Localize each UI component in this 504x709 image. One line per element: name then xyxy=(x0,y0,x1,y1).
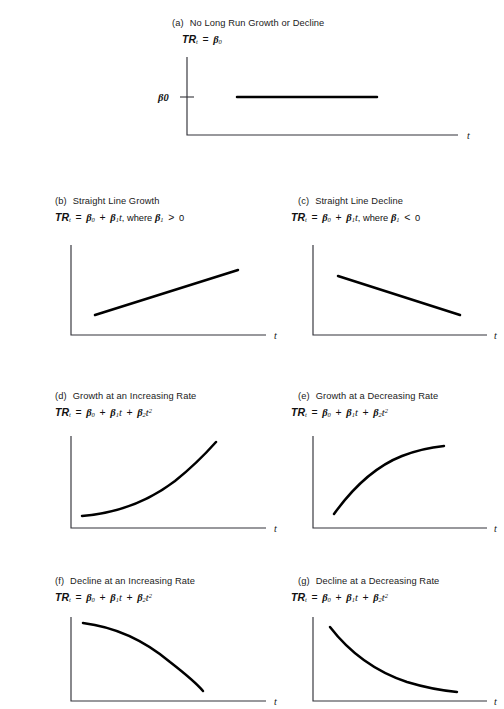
panel-a: (a)No Long Run Growth or Decline TRt = β… xyxy=(172,18,324,45)
tr-symbol: TR xyxy=(291,211,305,223)
t-squared-exponent: 2 xyxy=(385,592,388,599)
beta-one-subscript: 1 xyxy=(160,216,163,223)
panel-d-tag: (d) xyxy=(55,391,67,401)
zero-value: 0 xyxy=(415,213,420,223)
panel-g-tag: (g) xyxy=(298,576,310,586)
panel-e: (e)Growth at a Decreasing Rate TRt = β0 … xyxy=(298,391,438,418)
panel-f-x-axis-label: t xyxy=(274,696,277,707)
panel-f-plot: t xyxy=(70,615,295,709)
panel-a-plot: β0 t xyxy=(186,55,476,150)
plus-symbol: + xyxy=(124,406,134,418)
panel-c-caption-text: Straight Line Decline xyxy=(315,196,403,206)
tr-subscript: t xyxy=(69,596,71,603)
panel-d: (d)Growth at an Increasing Rate TRt = β0… xyxy=(55,391,196,418)
panel-g-formula: TRt = β0 + β1t + β2t2 xyxy=(291,591,439,603)
less-than-symbol: < xyxy=(402,211,412,223)
equals-symbol: = xyxy=(73,406,83,418)
panel-g-caption-text: Decline at a Decreasing Rate xyxy=(316,576,440,586)
panel-e-plot: t xyxy=(312,434,502,542)
equals-symbol: = xyxy=(73,591,83,603)
tr-symbol: TR xyxy=(55,211,69,223)
panel-d-caption-text: Growth at an Increasing Rate xyxy=(73,391,197,401)
panel-e-curve xyxy=(334,446,444,514)
panel-g-curve xyxy=(330,627,457,692)
beta-one-subscript: 1 xyxy=(396,216,399,223)
panel-e-formula: TRt = β0 + β1t + β2t2 xyxy=(291,406,438,418)
panel-e-caption: (e)Growth at a Decreasing Rate xyxy=(298,391,438,401)
panel-c-tag: (c) xyxy=(298,196,309,206)
plus-symbol: + xyxy=(97,211,107,223)
plus-symbol: + xyxy=(360,406,370,418)
panel-b-formula: TRt = β0 + β1t, where β1 > 0 xyxy=(55,211,184,223)
panel-b-tag: (b) xyxy=(55,196,67,206)
trend-models-figure: (a)No Long Run Growth or Decline TRt = β… xyxy=(0,0,504,709)
panel-b: (b)Straight Line Growth TRt = β0 + β1t, … xyxy=(55,196,184,223)
plus-symbol: + xyxy=(333,211,343,223)
t-variable: t xyxy=(119,407,122,418)
panel-c-formula: TRt = β0 + β1t, where β1 < 0 xyxy=(291,211,420,223)
plus-symbol: + xyxy=(360,591,370,603)
beta-zero-subscript: 0 xyxy=(219,38,222,45)
panel-b-caption-text: Straight Line Growth xyxy=(73,196,160,206)
equals-symbol: = xyxy=(309,211,319,223)
tr-subscript: t xyxy=(69,216,71,223)
panel-g-caption: (g)Decline at a Decreasing Rate xyxy=(298,576,439,586)
t-variable: t xyxy=(119,592,122,603)
panel-f: (f)Decline at an Increasing Rate TRt = β… xyxy=(55,576,195,603)
panel-g-axes xyxy=(313,617,487,701)
beta-zero-subscript: 0 xyxy=(92,596,95,603)
panel-d-plot: t xyxy=(70,434,295,542)
panel-f-caption-text: Decline at an Increasing Rate xyxy=(70,576,195,586)
equals-symbol: = xyxy=(309,406,319,418)
panel-c-caption: (c)Straight Line Decline xyxy=(298,196,420,206)
panel-a-x-axis-label: t xyxy=(467,130,470,141)
tr-symbol: TR xyxy=(291,406,305,418)
panel-e-caption-text: Growth at a Decreasing Rate xyxy=(316,391,439,401)
panel-c-x-axis-label: t xyxy=(494,330,497,341)
panel-a-caption: (a)No Long Run Growth or Decline xyxy=(172,18,324,28)
panel-b-caption: (b)Straight Line Growth xyxy=(55,196,184,206)
beta-zero-subscript: 0 xyxy=(328,216,331,223)
beta-zero-subscript: 0 xyxy=(92,411,95,418)
panel-f-curve xyxy=(83,623,203,691)
panel-f-axes xyxy=(71,617,266,701)
t-squared-exponent: 2 xyxy=(149,592,152,599)
panel-a-tag: (a) xyxy=(172,18,184,28)
panel-c: (c)Straight Line Decline TRt = β0 + β1t,… xyxy=(298,196,420,223)
tr-subscript: t xyxy=(305,216,307,223)
t-variable: t xyxy=(355,592,358,603)
panel-d-curve xyxy=(82,442,216,516)
equals-symbol: = xyxy=(309,591,319,603)
tr-symbol: TR xyxy=(291,591,305,603)
beta-zero-subscript: 0 xyxy=(328,596,331,603)
panel-c-plot: t xyxy=(312,243,502,348)
panel-e-tag: (e) xyxy=(298,391,310,401)
beta-zero-subscript: 0 xyxy=(92,216,95,223)
t-variable: t xyxy=(355,407,358,418)
panel-b-x-axis-label: t xyxy=(274,330,277,341)
equals-symbol: = xyxy=(73,211,83,223)
tr-symbol: TR xyxy=(55,591,69,603)
tr-subscript: t xyxy=(305,596,307,603)
panel-a-caption-text: No Long Run Growth or Decline xyxy=(190,18,325,28)
panel-f-formula: TRt = β0 + β1t + β2t2 xyxy=(55,591,195,603)
panel-c-axes xyxy=(313,245,487,335)
panel-b-plot: t xyxy=(70,243,295,348)
tr-symbol: TR xyxy=(182,33,196,45)
tr-subscript: t xyxy=(69,411,71,418)
panel-b-curve xyxy=(95,270,238,315)
greater-than-symbol: > xyxy=(166,211,176,223)
equals-symbol: = xyxy=(200,33,210,45)
panel-c-curve xyxy=(338,276,460,315)
panel-d-x-axis-label: t xyxy=(274,523,277,534)
zero-value: 0 xyxy=(179,213,184,223)
plus-symbol: + xyxy=(333,406,343,418)
tr-subscript: t xyxy=(196,38,198,45)
tr-symbol: TR xyxy=(55,406,69,418)
plus-symbol: + xyxy=(124,591,134,603)
panel-d-formula: TRt = β0 + β1t + β2t2 xyxy=(55,406,196,418)
panel-e-axes xyxy=(313,436,487,528)
beta-zero-subscript: 0 xyxy=(328,411,331,418)
plus-symbol: + xyxy=(97,406,107,418)
panel-f-tag: (f) xyxy=(55,576,64,586)
